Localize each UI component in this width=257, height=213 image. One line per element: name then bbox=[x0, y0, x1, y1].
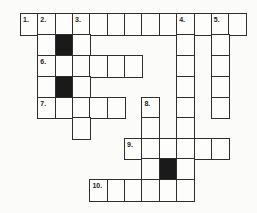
crossword-cell[interactable] bbox=[141, 138, 160, 160]
crossword-cell[interactable] bbox=[228, 13, 247, 36]
crossword-cell[interactable] bbox=[176, 55, 195, 78]
crossword-block bbox=[55, 76, 74, 99]
clue-number: 4. bbox=[179, 16, 185, 23]
crossword-cell[interactable] bbox=[72, 55, 91, 78]
crossword-block bbox=[159, 158, 178, 181]
crossword-cell[interactable] bbox=[211, 76, 230, 99]
crossword-cell[interactable] bbox=[55, 55, 74, 78]
crossword-cell[interactable]: 9. bbox=[124, 138, 143, 160]
crossword-cell[interactable] bbox=[55, 13, 74, 36]
crossword-cell[interactable] bbox=[89, 13, 108, 36]
crossword-cell[interactable] bbox=[72, 76, 91, 99]
crossword-cell[interactable] bbox=[124, 13, 143, 36]
clue-number: 2. bbox=[40, 16, 46, 23]
crossword-cell[interactable] bbox=[176, 97, 195, 119]
crossword-cell[interactable] bbox=[194, 138, 213, 160]
crossword-cell[interactable] bbox=[107, 179, 126, 202]
crossword-cell[interactable] bbox=[141, 158, 160, 181]
crossword-cell[interactable] bbox=[141, 13, 160, 36]
crossword-cell[interactable]: 10. bbox=[89, 179, 108, 202]
crossword-cell[interactable] bbox=[159, 179, 178, 202]
crossword-cell[interactable] bbox=[107, 13, 126, 36]
crossword-cell[interactable] bbox=[176, 34, 195, 57]
crossword-cell[interactable] bbox=[211, 34, 230, 57]
crossword-cell[interactable]: 6. bbox=[37, 55, 56, 78]
crossword-cell[interactable] bbox=[159, 138, 178, 160]
crossword-cell[interactable] bbox=[89, 97, 108, 119]
crossword-cell[interactable]: 5. bbox=[211, 13, 230, 36]
crossword-cell[interactable] bbox=[124, 179, 143, 202]
crossword-cell[interactable] bbox=[141, 179, 160, 202]
clue-number: 10. bbox=[92, 182, 102, 189]
clue-number: 6. bbox=[40, 58, 46, 65]
crossword-cell[interactable] bbox=[211, 55, 230, 78]
crossword-cell[interactable]: 7. bbox=[37, 97, 56, 119]
crossword-grid: 1.2.3.4.5.6.7.8.9.10. bbox=[0, 0, 257, 213]
crossword-cell[interactable]: 1. bbox=[20, 13, 39, 36]
crossword-cell[interactable]: 2. bbox=[37, 13, 56, 36]
crossword-cell[interactable] bbox=[37, 76, 56, 99]
crossword-cell[interactable]: 4. bbox=[176, 13, 195, 36]
crossword-cell[interactable] bbox=[141, 117, 160, 140]
crossword-block bbox=[55, 34, 74, 57]
clue-number: 1. bbox=[23, 16, 29, 23]
crossword-cell[interactable] bbox=[176, 117, 195, 140]
crossword-cell[interactable] bbox=[107, 55, 126, 78]
clue-number: 3. bbox=[75, 16, 81, 23]
crossword-cell[interactable] bbox=[211, 97, 230, 119]
clue-number: 8. bbox=[144, 100, 150, 107]
crossword-cell[interactable] bbox=[37, 34, 56, 57]
crossword-cell[interactable] bbox=[194, 13, 213, 36]
crossword-cell[interactable] bbox=[176, 138, 195, 160]
crossword-cell[interactable] bbox=[211, 138, 230, 160]
crossword-cell[interactable]: 8. bbox=[141, 97, 160, 119]
crossword-cell[interactable] bbox=[55, 97, 74, 119]
crossword-cell[interactable] bbox=[124, 55, 143, 78]
crossword-cell[interactable] bbox=[176, 179, 195, 202]
crossword-cell[interactable] bbox=[159, 13, 178, 36]
crossword-cell[interactable] bbox=[107, 97, 126, 119]
crossword-cell[interactable] bbox=[89, 55, 108, 78]
clue-number: 9. bbox=[127, 141, 133, 148]
clue-number: 7. bbox=[40, 100, 46, 107]
crossword-cell[interactable] bbox=[72, 117, 91, 140]
crossword-cell[interactable] bbox=[176, 76, 195, 99]
crossword-cell[interactable] bbox=[176, 158, 195, 181]
crossword-cell[interactable]: 3. bbox=[72, 13, 91, 36]
crossword-cell[interactable] bbox=[72, 97, 91, 119]
crossword-cell[interactable] bbox=[72, 34, 91, 57]
clue-number: 5. bbox=[214, 16, 220, 23]
